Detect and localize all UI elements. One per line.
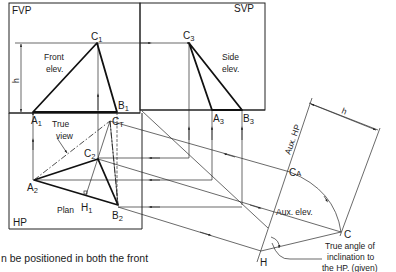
point-ct: CT: [112, 116, 124, 129]
point-c2: C2: [84, 148, 95, 161]
point-h: H: [260, 257, 267, 268]
true-view-label-1: True: [52, 119, 69, 129]
svp-box: [140, 3, 265, 110]
aux-hp-line: [257, 98, 312, 262]
front-elev-label-1: Front: [44, 52, 64, 62]
fvp-box: [9, 3, 140, 113]
orthographic-projection-diagram: FVP SVP HP Aux. HP Front elev. Side elev…: [0, 0, 396, 272]
angle-note-1: True angle of: [325, 241, 375, 251]
hp-label: HP: [13, 217, 27, 228]
point-a2: A2: [27, 182, 38, 195]
angle-note-3: the HP. (given): [322, 263, 378, 272]
point-c1: C1: [91, 31, 102, 44]
point-b1: B1: [118, 100, 129, 113]
hp-box: [9, 113, 142, 229]
true-view-label-2: view: [56, 131, 74, 141]
point-a3: A3: [213, 113, 224, 126]
point-ca: CA: [289, 167, 301, 178]
plan-label: Plan: [57, 205, 74, 215]
plan-triangle: [34, 159, 118, 205]
svp-label: SVP: [234, 3, 254, 14]
point-b2: B2: [112, 210, 123, 223]
side-elev-label-2: elev.: [222, 64, 239, 74]
side-elev-label-1: Side: [222, 52, 239, 62]
point-a1: A1: [31, 115, 42, 128]
h-dim-left: h: [11, 78, 21, 83]
plane-boxes: [9, 3, 265, 229]
point-b3: B3: [243, 113, 254, 126]
h-dim-right: h: [340, 106, 348, 117]
point-c3: C3: [183, 30, 194, 43]
aux-hp-label: Aux. HP: [282, 123, 302, 156]
angle-note-2: inclination to: [327, 252, 375, 262]
point-h1: H1: [81, 202, 92, 215]
front-elev-label-2: elev.: [46, 64, 63, 74]
true-view-edge: [34, 121, 110, 180]
caption-fragment: n be positioned in both the front: [1, 252, 148, 264]
fvp-label: FVP: [12, 5, 32, 16]
aux-elev-label: Aux. elev.: [276, 207, 313, 217]
point-c: C: [344, 229, 351, 240]
